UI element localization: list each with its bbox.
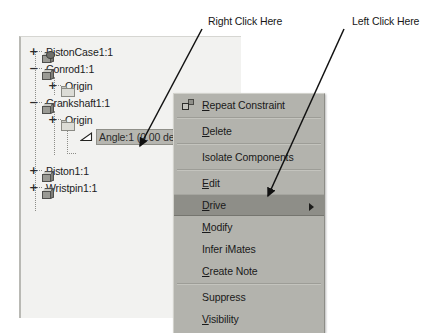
menu-item-edit[interactable]: Edit: [174, 172, 324, 194]
menu-separator: [177, 169, 321, 171]
tree-row[interactable]: + Origin: [48, 77, 92, 94]
angle-constraint-icon: [80, 128, 93, 146]
menu-item-label: Drive: [202, 199, 226, 211]
menu-item-label: Delete: [202, 125, 232, 137]
menu-item-infer-imates[interactable]: Infer iMates: [174, 238, 324, 260]
menu-item-label: Visibility: [202, 313, 239, 325]
menu-item-label: Create Note: [202, 265, 258, 277]
menu-item-isolate-components[interactable]: Isolate Components: [174, 146, 324, 168]
menu-item-delete[interactable]: Delete: [174, 120, 324, 142]
annotation-label-right-click: Right Click Here: [208, 15, 282, 27]
tree-row[interactable]: + PistonCase1:1: [29, 43, 113, 60]
screenshot-stage: + PistonCase1:1 − Conrod1:1 +: [0, 0, 438, 333]
menu-item-label: Modify: [202, 221, 232, 233]
expand-toggle-icon[interactable]: +: [48, 81, 57, 90]
menu-item-label: Suppress: [202, 291, 246, 303]
menu-separator: [177, 143, 321, 145]
expand-toggle-icon[interactable]: +: [29, 183, 38, 192]
expand-toggle-icon[interactable]: +: [48, 115, 57, 124]
tree-row[interactable]: − Crankshaft1:1: [29, 94, 110, 111]
tree-row[interactable]: + Origin: [48, 111, 92, 128]
drive-menu-item[interactable]: Drive: [174, 194, 324, 216]
tree-node-label: Crankshaft1:1: [46, 97, 110, 109]
menu-item-suppress[interactable]: Suppress: [174, 286, 324, 308]
context-menu[interactable]: Repeat Constraint Delete Isolate Compone…: [173, 93, 325, 333]
menu-item-create-note[interactable]: Create Note: [174, 260, 324, 282]
menu-separator: [177, 283, 321, 285]
angle-constraint-row[interactable]: Angle:1 (0.00 deg): [67, 128, 186, 145]
tree-row[interactable]: + Wristpin1:1: [29, 179, 97, 196]
menu-item-label: Isolate Components: [202, 151, 294, 163]
tree-row[interactable]: + Piston1:1: [29, 162, 89, 179]
collapse-toggle-icon[interactable]: −: [29, 64, 38, 73]
menu-item-label: Edit: [202, 177, 220, 189]
menu-item-repeat-constraint[interactable]: Repeat Constraint: [174, 94, 324, 116]
menu-item-label: Repeat Constraint: [202, 99, 285, 111]
menu-item-modify[interactable]: Modify: [174, 216, 324, 238]
tree-row[interactable]: − Conrod1:1: [29, 60, 94, 77]
tree-node-label: PistonCase1:1: [46, 46, 113, 58]
annotation-label-left-click: Left Click Here: [352, 15, 419, 27]
repeat-constraint-icon: [182, 99, 195, 111]
menu-item-visibility[interactable]: Visibility: [174, 308, 324, 330]
menu-separator: [177, 117, 321, 119]
collapse-toggle-icon[interactable]: −: [29, 98, 38, 107]
expand-toggle-icon[interactable]: +: [29, 166, 38, 175]
angle-constraint-glyph: [80, 131, 93, 142]
submenu-chevron-icon: [309, 203, 314, 211]
menu-item-label: Infer iMates: [202, 243, 256, 255]
expand-toggle-icon[interactable]: +: [29, 47, 38, 56]
